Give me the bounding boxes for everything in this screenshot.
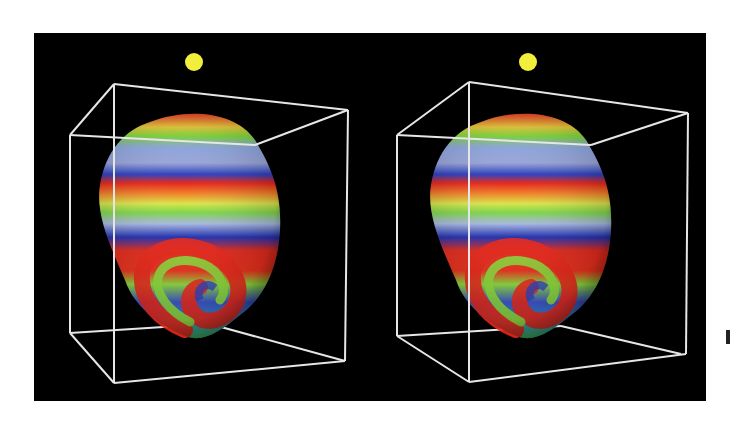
light-source-icon	[519, 53, 537, 71]
heart-surface	[430, 114, 611, 339]
heart-surface	[99, 114, 280, 339]
right-eye-view	[397, 53, 688, 382]
stereo-scene	[0, 0, 730, 426]
left-eye-view	[70, 53, 348, 383]
light-source-icon	[185, 53, 203, 71]
edge-marker	[726, 330, 730, 344]
